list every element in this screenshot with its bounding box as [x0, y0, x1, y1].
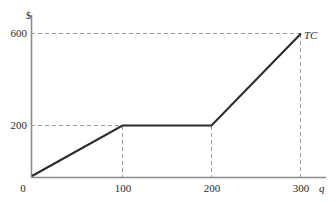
total-cost-curve-label: TC — [304, 30, 317, 41]
y-tick-label-600: 600 — [5, 28, 27, 39]
x-tick-label-300: 300 — [287, 183, 315, 194]
x-tick-label-100: 100 — [109, 183, 137, 194]
x-tick-label-0: 0 — [15, 183, 31, 194]
x-axis-label: q — [319, 183, 325, 194]
total-cost-chart: $ 600 200 0 100 200 300 q TC — [0, 0, 336, 202]
y-axis-unit-label: $ — [26, 10, 31, 21]
y-tick-label-200: 200 — [5, 120, 27, 131]
total-cost-curve — [32, 34, 301, 177]
x-tick-label-200: 200 — [198, 183, 226, 194]
chart-plot-area — [0, 0, 336, 202]
